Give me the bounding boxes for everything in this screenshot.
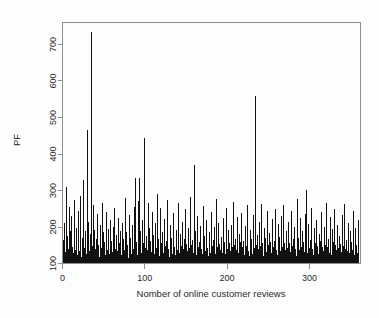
- x-tick-label: 100: [137, 273, 152, 283]
- x-tick-label: 300: [302, 273, 317, 283]
- y-axis-ticks: 100200300400500600700: [48, 37, 63, 271]
- x-axis-title: Nomber of online customer reviews: [137, 288, 286, 299]
- y-tick-label: 600: [48, 73, 58, 88]
- y-tick-label: 700: [48, 37, 58, 52]
- impulse-plot: 100200300400500600700 0100200300 PF Nomb…: [0, 0, 379, 318]
- x-tick-label: 200: [220, 273, 235, 283]
- y-axis-title: PF: [11, 134, 22, 146]
- x-axis-ticks: 0100200300: [60, 264, 317, 283]
- y-tick-label: 300: [48, 183, 58, 198]
- y-tick-label: 200: [48, 219, 58, 234]
- y-tick-label: 500: [48, 110, 58, 125]
- y-tick-label: 400: [48, 146, 58, 161]
- chart-figure: 100200300400500600700 0100200300 PF Nomb…: [0, 0, 379, 318]
- x-tick-label: 0: [60, 273, 65, 283]
- y-tick-label: 100: [48, 256, 58, 271]
- impulse-series: [63, 32, 359, 264]
